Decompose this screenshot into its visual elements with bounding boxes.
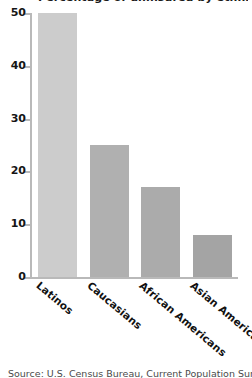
- x-axis-label: Latinos: [34, 279, 75, 317]
- y-tick-label: 20: [11, 164, 26, 177]
- plot-area: 01020304050: [30, 13, 238, 277]
- y-tick-label: 30: [11, 112, 26, 125]
- x-axis-label: African Americans: [137, 279, 229, 359]
- y-tick-label: 40: [11, 59, 26, 72]
- y-tick-label: 50: [11, 6, 26, 19]
- bar: [38, 13, 77, 277]
- y-tick-label: 10: [11, 217, 26, 230]
- bars-layer: [32, 13, 238, 277]
- chart-title: Percentage of uninsured by ethnicity: [38, 0, 248, 3]
- x-axis-labels: LatinosCaucasiansAfrican AmericansAsian …: [30, 279, 252, 369]
- bar-chart-figure: Percentage of uninsured by ethnicity 010…: [0, 0, 252, 378]
- bar: [90, 145, 129, 277]
- y-tick-label: 0: [18, 270, 26, 283]
- chart-caption: Source: U.S. Census Bureau, Current Popu…: [8, 368, 252, 378]
- x-axis-label: Caucasians: [86, 279, 145, 331]
- bar: [193, 235, 232, 277]
- bar: [141, 187, 180, 277]
